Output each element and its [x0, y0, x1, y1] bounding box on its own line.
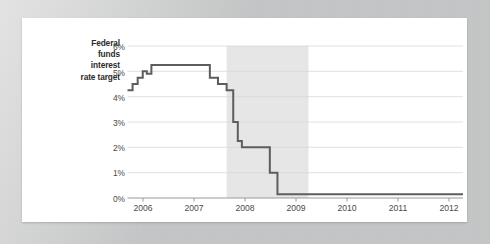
chart-card: Federal funds interest rate target 6% 5%… — [22, 18, 467, 222]
screenshot-root: Federal funds interest rate target 6% 5%… — [0, 0, 490, 244]
line-chart-plot — [22, 18, 467, 222]
x-axis-ticks — [143, 198, 449, 202]
